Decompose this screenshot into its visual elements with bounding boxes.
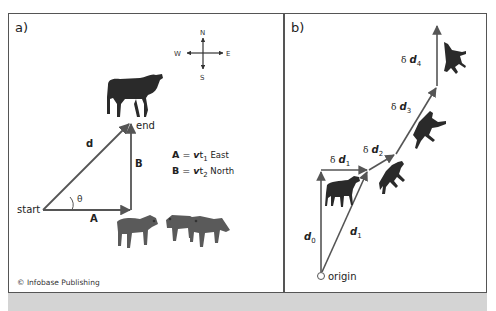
vector-b-label: B [135,158,143,169]
origin-point [318,273,325,280]
compass-south: S [200,74,205,82]
horse-walking-icon [325,176,360,207]
vector-d-arrow [43,124,129,210]
horse-trotting-icon [379,161,405,194]
caption-strip [8,293,487,311]
compass-west: W [174,50,181,58]
angle-arc [70,197,73,210]
equation-b: B = vt2 North [172,165,234,179]
vector-d-label: d [86,138,93,149]
copyright-credit: © Infobase Publishing [17,278,100,287]
panel-b-label: b) [291,20,304,35]
origin-label: origin [328,271,356,282]
angle-theta: θ [77,194,83,204]
figure: a) N S E W θ start [0,0,496,311]
horse-running-icon [444,42,466,74]
vector-a-label: A [90,213,98,224]
compass-east: E [226,50,230,58]
increment-d1-label: δ d1 [330,154,350,168]
horse-icon [107,74,163,117]
compass-north: N [200,29,205,37]
end-label: end [136,120,155,131]
panel-a-label: a) [15,20,28,35]
increment-d4-label: δ d4 [401,54,422,68]
vector-d0-label: d0 [304,231,316,245]
increment-d3-label: δ d3 [391,101,411,115]
compass-icon: N S E W [174,29,230,82]
panel-b: b) origin d0 d1 δ d1 δ d2 δ d3 δ d4 [291,20,466,282]
equation-a: A = vt1 East [172,149,229,163]
increment-d2-label: δ d2 [363,144,383,158]
diagram-canvas: a) N S E W θ start [0,0,496,311]
panel-a: a) N S E W θ start [15,20,234,287]
start-label: start [17,204,40,215]
wolves-icon [117,215,230,248]
vector-d1-label: d1 [350,226,362,240]
